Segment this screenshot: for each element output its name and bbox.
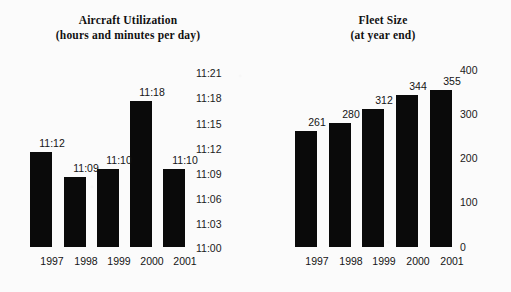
aircraft-utilization-chart: Aircraft Utilization (hours and minutes …: [0, 0, 256, 292]
bar-value-label: 11:18: [130, 86, 174, 98]
y-axis-tick: 300: [460, 108, 478, 120]
y-axis-tick: 11:18: [196, 92, 222, 104]
x-axis-tick-2001: 2001: [165, 255, 205, 267]
bar-value-label: 312: [362, 94, 406, 106]
bar-1998: [329, 123, 351, 247]
bar-1999: [97, 169, 119, 247]
bar-1997: [295, 131, 317, 247]
y-axis-tick: 11:03: [196, 218, 222, 230]
plot-area-fleet-size: 261 280 312 344 355 1997 1998 1999 2000 …: [255, 0, 511, 292]
x-axis-tick-2001: 2001: [432, 255, 472, 267]
bar-1997: [30, 152, 52, 247]
y-axis-tick: 11:12: [196, 143, 222, 155]
chart-page: Aircraft Utilization (hours and minutes …: [0, 0, 511, 292]
y-axis-tick: 11:21: [196, 67, 222, 79]
bar-value-label: 11:10: [97, 154, 141, 166]
y-axis-tick: 11:09: [196, 168, 222, 180]
fleet-size-chart: Fleet Size (at year end) 261 280 312 344…: [255, 0, 511, 292]
bar-value-label: 11:10: [163, 154, 207, 166]
bar-2000: [130, 101, 152, 247]
y-axis-tick: 200: [460, 152, 478, 164]
bar-value-label: 355: [430, 75, 474, 87]
y-axis-tick: 11:06: [196, 193, 222, 205]
y-axis-tick: 0: [460, 241, 466, 253]
bar-2000: [396, 95, 418, 247]
y-axis-tick: 11:15: [196, 118, 222, 130]
y-axis-tick: 100: [460, 196, 478, 208]
y-axis-tick: 400: [460, 64, 478, 76]
y-axis-tick: 11:00: [196, 242, 222, 254]
bar-value-label: 11:12: [30, 137, 74, 149]
bar-1998: [64, 177, 86, 247]
bar-value-label: 280: [329, 108, 373, 120]
bar-2001: [163, 169, 185, 247]
plot-area-aircraft-utilization: 11:12 11:09 11:10 11:18 11:10 1997 1998 …: [0, 0, 256, 292]
bar-1999: [362, 109, 384, 247]
bar-2001: [430, 90, 452, 247]
